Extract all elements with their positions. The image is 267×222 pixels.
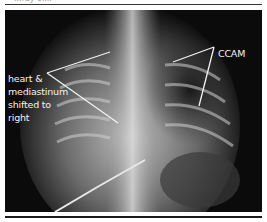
label-line: mediastinum <box>8 85 68 98</box>
chest-xray-image: heart & mediastinum shifted to right CCA… <box>5 10 262 212</box>
top-divider <box>5 4 262 5</box>
heart-mediastinum-label: heart & mediastinum shifted to right <box>8 72 68 124</box>
label-line: CCAM <box>218 47 245 60</box>
label-line: shifted to <box>8 98 68 111</box>
label-line: right <box>8 111 68 124</box>
bottom-divider <box>5 216 262 218</box>
label-line: heart & <box>8 72 68 85</box>
cropped-caption: ...ray of... <box>14 0 52 3</box>
ccam-label: CCAM <box>218 47 245 60</box>
